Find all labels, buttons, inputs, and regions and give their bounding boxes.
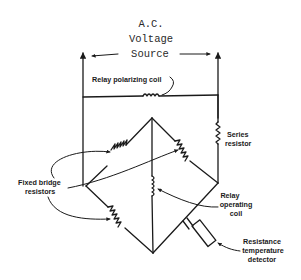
series-resistor-label-1: Series (227, 130, 249, 139)
operating-coil-label-2: operating (220, 200, 253, 209)
fixed-resistor-leader-1 (51, 151, 110, 178)
rtd-label-1: Resistance (243, 237, 281, 246)
resistance-temperature-detector (183, 218, 216, 246)
bridge-circuit-diagram: A.C. Voltage Source Relay polarizing coi… (0, 0, 301, 280)
bridge-arm-bottom-right (153, 183, 218, 253)
polarizing-coil-wire (83, 94, 218, 97)
bridge-arm-top-left (86, 118, 152, 186)
title-line-2: Voltage (129, 33, 173, 45)
rtd-probe-icon (192, 220, 216, 247)
fixed-resistor-leader-2 (68, 150, 178, 188)
relay-operating-coil-branch (152, 118, 154, 253)
voltage-source-title: A.C. Voltage Source (129, 18, 173, 60)
operating-coil-label-3: coil (230, 209, 242, 218)
bridge-arm-top-right (152, 118, 218, 183)
relay-operating-coil-icon (152, 176, 154, 196)
series-resistor-icon (216, 122, 220, 144)
rtd-leader (218, 243, 240, 251)
fixed-resistor-1-icon (111, 140, 127, 150)
fixed-bridge-label-1: Fixed bridge (18, 178, 61, 187)
fixed-bridge-label-2: resistors (25, 187, 55, 196)
series-resistor (216, 95, 220, 183)
title-line-1: A.C. (138, 18, 163, 30)
polarizing-coil-icon (143, 94, 159, 96)
rtd-label-2: temperature (242, 246, 284, 255)
polarizing-coil-label: Relay polarizing coil (92, 75, 162, 84)
title-line-3: Source (131, 48, 169, 60)
polarizing-coil-leader (162, 77, 174, 95)
series-resistor-label-2: resistor (225, 139, 252, 148)
left-source-arrow (92, 54, 118, 56)
fixed-resistor-3-icon (108, 206, 121, 227)
rtd-label-3: detector (248, 255, 277, 264)
operating-coil-leader (158, 189, 218, 207)
operating-coil-label-1: Relay (220, 191, 239, 200)
